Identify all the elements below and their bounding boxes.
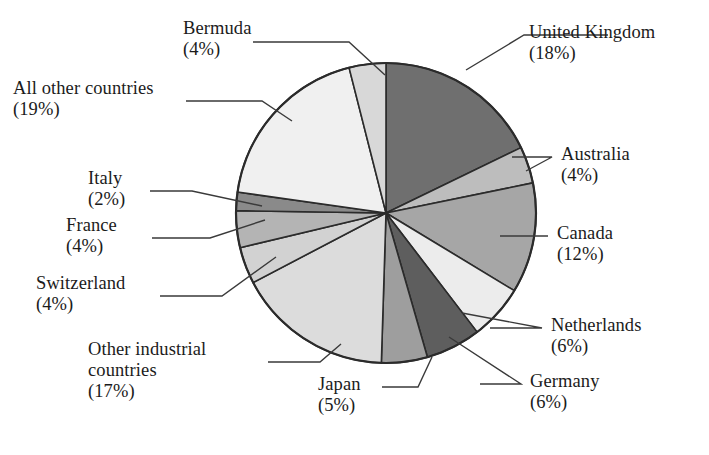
label-australia: Australia (4%) (561, 144, 630, 186)
label-united-kingdom: United Kingdom (18%) (529, 22, 655, 64)
label-france: France (4%) (66, 215, 117, 257)
label-all-other-countries-name: All other countries (13, 78, 154, 98)
label-bermuda-pct: (4%) (183, 39, 252, 60)
label-australia-pct: (4%) (561, 165, 630, 186)
label-switzerland: Switzerland (4%) (36, 273, 125, 315)
label-united-kingdom-name: United Kingdom (529, 22, 655, 42)
label-italy: Italy (2%) (88, 168, 125, 210)
figure-canvas: Bermuda (4%) All other countries (19%) I… (0, 0, 709, 455)
label-canada-name: Canada (557, 223, 613, 243)
label-netherlands-name: Netherlands (551, 315, 641, 335)
label-germany-name: Germany (530, 371, 600, 391)
label-canada: Canada (12%) (557, 223, 613, 265)
label-switzerland-pct: (4%) (36, 294, 125, 315)
label-italy-name: Italy (88, 168, 122, 188)
label-all-other-countries-pct: (19%) (13, 99, 154, 120)
label-germany-pct: (6%) (530, 392, 600, 413)
label-bermuda-name: Bermuda (183, 18, 252, 38)
label-japan: Japan (5%) (318, 374, 361, 416)
label-other-industrial-countries: Other industrial countries (17%) (88, 339, 206, 402)
label-other-industrial-pct: (17%) (88, 381, 206, 402)
label-japan-name: Japan (318, 374, 361, 394)
leader-line-germany (449, 337, 521, 384)
label-canada-pct: (12%) (557, 244, 613, 265)
label-france-pct: (4%) (66, 236, 117, 257)
label-netherlands-pct: (6%) (551, 336, 641, 357)
label-netherlands: Netherlands (6%) (551, 315, 641, 357)
label-france-name: France (66, 215, 117, 235)
label-bermuda: Bermuda (4%) (183, 18, 252, 60)
label-united-kingdom-pct: (18%) (529, 43, 655, 64)
label-other-industrial-name-line2: countries (88, 360, 206, 381)
label-other-industrial-name-line1: Other industrial (88, 339, 206, 359)
label-australia-name: Australia (561, 144, 630, 164)
label-all-other-countries: All other countries (19%) (13, 78, 154, 120)
label-switzerland-name: Switzerland (36, 273, 125, 293)
label-japan-pct: (5%) (318, 395, 361, 416)
label-germany: Germany (6%) (530, 371, 600, 413)
label-italy-pct: (2%) (88, 189, 125, 210)
